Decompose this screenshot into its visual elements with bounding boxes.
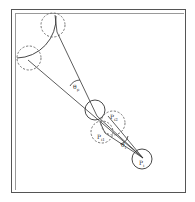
label-p-i: Pi [139, 159, 145, 168]
line-pi2-to-pi [108, 116, 143, 158]
large-arc [17, 16, 56, 58]
label-theta-p: θp [73, 83, 80, 92]
label-p-i1: Pi1 [97, 133, 105, 142]
line-upper [57, 32, 97, 116]
diagram-canvas: θp Pi2 Pi1 θi Pi [0, 0, 195, 202]
